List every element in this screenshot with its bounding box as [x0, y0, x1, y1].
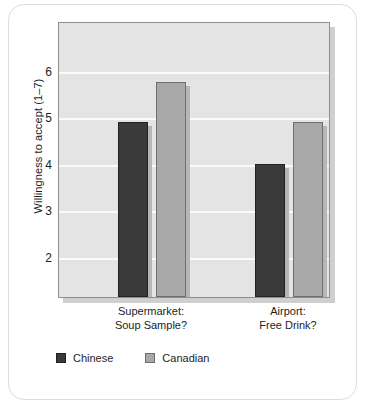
bar-chart: 65432 Willingness to accept (1–7) Superm… — [0, 0, 367, 408]
y-tick-label-2: 2 — [30, 251, 52, 265]
bar-chinese-group2 — [255, 164, 285, 297]
gridline-4 — [59, 165, 329, 167]
legend-label: Canadian — [162, 352, 209, 364]
bar-canadian-group1 — [156, 82, 186, 297]
bar-canadian-group2 — [293, 122, 323, 297]
x-category-label-line: Free Drink? — [218, 318, 358, 332]
x-category-label-2: Airport:Free Drink? — [218, 304, 358, 332]
x-category-label-line: Airport: — [218, 304, 358, 318]
chart-legend: ChineseCanadian — [56, 352, 209, 364]
gridline-6 — [59, 72, 329, 74]
x-category-label-line: Supermarket: — [81, 304, 221, 318]
gridline-5 — [59, 118, 329, 120]
x-category-label-1: Supermarket:Soup Sample? — [81, 304, 221, 332]
x-category-label-line: Soup Sample? — [81, 318, 221, 332]
legend-item-chinese: Chinese — [56, 352, 113, 364]
legend-swatch-chinese — [56, 353, 66, 363]
legend-item-canadian: Canadian — [145, 352, 209, 364]
bar-chinese-group1 — [118, 122, 148, 297]
y-axis-title: Willingness to accept (1–7) — [32, 46, 44, 246]
legend-swatch-canadian — [145, 353, 155, 363]
legend-label: Chinese — [73, 352, 113, 364]
plot-area — [58, 22, 330, 298]
